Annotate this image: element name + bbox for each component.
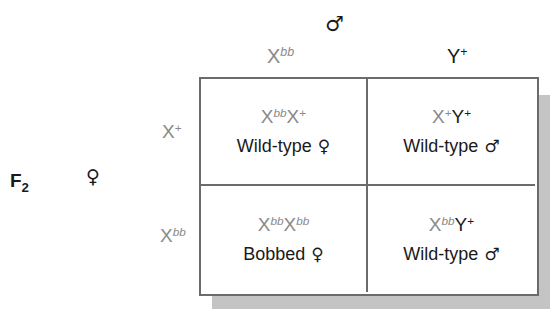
genotype: XbbY+ <box>429 214 474 236</box>
chromosome-label: X <box>162 121 175 142</box>
female-symbol: ♀ <box>86 165 100 187</box>
male-icon: ♂ <box>484 136 499 156</box>
row-header-xbb: Xbb <box>160 225 186 247</box>
genotype: XbbXbb <box>258 214 310 236</box>
column-header-yplus: Y+ <box>447 45 468 68</box>
drop-shadow-bottom <box>212 294 550 309</box>
phenotype: Wild-type♀ <box>237 136 330 157</box>
generation-letter: F <box>10 170 22 191</box>
row-header-xplus: X+ <box>162 121 182 143</box>
allele-superscript: + <box>175 121 182 134</box>
phenotype: Bobbed♀ <box>243 244 324 265</box>
cell-xplus-yplus: X+Y+ Wild-type♂ <box>368 79 535 186</box>
phenotype: Wild-type♂ <box>403 136 499 157</box>
female-icon: ♀ <box>311 244 323 264</box>
allele-superscript: + <box>460 45 467 59</box>
chromosome-label: Y <box>447 45 460 67</box>
cell-xbb-yplus: XbbY+ Wild-type♂ <box>368 186 535 292</box>
column-header-xbb: Xbb <box>267 45 294 68</box>
chromosome-label: X <box>160 225 173 246</box>
generation-number: 2 <box>22 180 29 195</box>
phenotype: Wild-type♂ <box>403 244 499 265</box>
cell-xbb-xbb: XbbXbb Bobbed♀ <box>201 186 368 292</box>
allele-superscript: bb <box>280 45 294 59</box>
generation-label: F2 <box>10 170 29 192</box>
male-symbol: ♂ <box>325 12 344 36</box>
allele-superscript: bb <box>173 225 186 238</box>
female-icon: ♀ <box>318 136 330 156</box>
male-icon: ♂ <box>484 244 499 264</box>
genotype: XbbX+ <box>261 106 306 128</box>
genotype: X+Y+ <box>432 106 471 128</box>
cell-xbb-xplus: XbbX+ Wild-type♀ <box>201 79 368 186</box>
punnett-grid: XbbX+ Wild-type♀ X+Y+ Wild-type♂ XbbXbb … <box>199 77 539 296</box>
chromosome-label: X <box>267 45 280 67</box>
